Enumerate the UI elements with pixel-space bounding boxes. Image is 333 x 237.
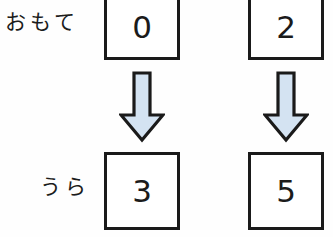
box-front-1: 0: [104, 0, 180, 60]
box-value: 2: [276, 12, 296, 43]
down-arrow-icon: [119, 71, 165, 143]
box-back-2: 5: [248, 152, 324, 230]
box-value: 5: [276, 176, 296, 207]
row-label-front: おもて: [5, 12, 79, 33]
box-value: 0: [132, 12, 152, 43]
down-arrow-icon: [263, 71, 309, 143]
diagram-canvas: おもて うら 0 2 3 5: [0, 0, 333, 237]
row-label-back: うら: [40, 177, 90, 198]
box-front-2: 2: [248, 0, 324, 60]
box-back-1: 3: [104, 152, 180, 230]
box-value: 3: [132, 176, 152, 207]
